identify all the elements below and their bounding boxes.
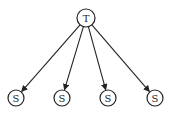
node-label: S <box>13 93 20 104</box>
node-t: T <box>77 9 95 27</box>
edge-t-s4 <box>92 25 150 92</box>
node-s3: S <box>100 90 116 106</box>
node-label: S <box>59 93 66 104</box>
node-label: S <box>152 93 159 104</box>
node-s4: S <box>147 90 163 106</box>
node-s1: S <box>8 90 24 106</box>
edge-t-s2 <box>64 27 83 90</box>
edge-t-s1 <box>22 25 80 92</box>
node-label: T <box>83 13 90 24</box>
node-label: S <box>105 93 112 104</box>
tree-diagram: TSSSS <box>0 0 174 114</box>
edge-t-s3 <box>88 27 105 90</box>
node-s2: S <box>54 90 70 106</box>
